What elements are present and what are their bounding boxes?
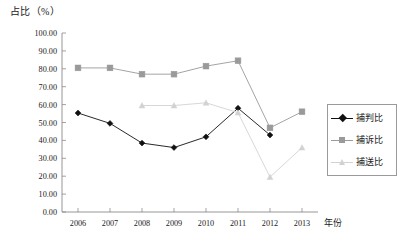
y-tick-label: 90.00 — [39, 47, 57, 56]
y-tick-label: 100.00 — [34, 29, 57, 38]
x-tick-label: 2009 — [166, 219, 182, 228]
data-point[interactable] — [171, 71, 177, 77]
legend-marker-diamond-icon — [331, 113, 353, 123]
legend-item-2[interactable]: 捕送比 — [331, 152, 383, 172]
y-tick-label: 30.00 — [39, 154, 57, 163]
legend-symbol-0 — [338, 114, 346, 122]
chart-container: 占比（%） 100.0090.0080.0070.0060.0050.0040.… — [0, 0, 403, 244]
data-point[interactable] — [107, 120, 113, 126]
y-tick-label: 70.00 — [39, 83, 57, 92]
x-tick-label: 2008 — [134, 219, 150, 228]
x-tick-label: 2007 — [102, 219, 118, 228]
x-axis-title: 年份 — [324, 217, 342, 228]
y-tick-label: 20.00 — [39, 172, 57, 181]
data-point[interactable] — [139, 71, 145, 77]
data-point[interactable] — [75, 65, 81, 71]
legend-label-2: 捕送比 — [356, 158, 383, 167]
series-line-2 — [142, 103, 302, 177]
legend-item-1[interactable]: 捕诉比 — [331, 130, 383, 150]
x-tick-label: 2006 — [70, 219, 86, 228]
y-tick-label: 50.00 — [39, 119, 57, 128]
y-tick-label: 80.00 — [39, 65, 57, 74]
legend-marker-triangle-icon — [331, 157, 353, 167]
x-tick-label: 2012 — [262, 219, 278, 228]
y-tick-label: 60.00 — [39, 101, 57, 110]
y-tick-label: 40.00 — [39, 136, 57, 145]
data-point[interactable] — [203, 63, 209, 69]
data-point[interactable] — [299, 109, 305, 115]
data-point[interactable] — [75, 110, 81, 116]
data-point[interactable] — [267, 125, 273, 131]
data-point[interactable] — [299, 145, 305, 150]
legend-label-0: 捕判比 — [356, 114, 383, 123]
x-tick-label: 2013 — [294, 219, 310, 228]
legend-item-0[interactable]: 捕判比 — [331, 108, 383, 128]
legend-label-1: 捕诉比 — [356, 136, 383, 145]
legend-symbol-1 — [339, 137, 345, 143]
data-point[interactable] — [107, 65, 113, 71]
chart-legend: 捕判比 捕诉比 捕送比 — [327, 104, 397, 176]
y-tick-label: 10.00 — [39, 190, 57, 199]
series-line-0 — [78, 108, 270, 147]
x-tick-label: 2010 — [198, 219, 214, 228]
legend-marker-square-icon — [331, 135, 353, 145]
x-tick-label: 2011 — [230, 219, 246, 228]
y-tick-label: 0.00 — [43, 208, 57, 217]
data-point[interactable] — [235, 58, 241, 64]
legend-symbol-2 — [339, 159, 345, 165]
data-point[interactable] — [171, 145, 177, 151]
data-point[interactable] — [139, 140, 145, 146]
